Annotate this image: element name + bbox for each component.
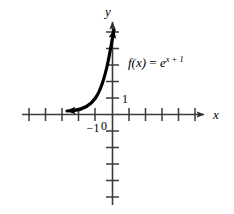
x-axis-label: x: [212, 107, 219, 122]
function-lhs: f(x): [128, 55, 146, 70]
origin-label: 0: [101, 119, 107, 133]
function-exponent: x + 1: [166, 54, 184, 64]
x-tick-label-minus-one: −1: [87, 121, 100, 135]
y-axis-label: y: [103, 4, 111, 19]
y-tick-label-one: 1: [122, 92, 128, 106]
function-equals: =: [146, 55, 160, 70]
graph-figure: y x 0 −1 1 f(x) = ex + 1: [0, 0, 234, 214]
curve-left-asymptote-arrow: [67, 110, 76, 111]
coordinate-plane-svg: y x 0 −1 1: [0, 0, 234, 214]
function-equation-label: f(x) = ex + 1: [128, 56, 184, 69]
